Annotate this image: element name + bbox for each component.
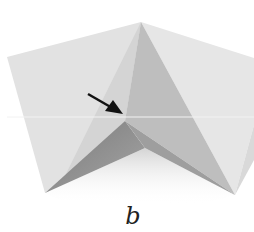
folded-paper-illustration <box>0 0 254 232</box>
figure-caption: b <box>0 202 254 230</box>
folded-paper-figure: b <box>0 0 254 232</box>
